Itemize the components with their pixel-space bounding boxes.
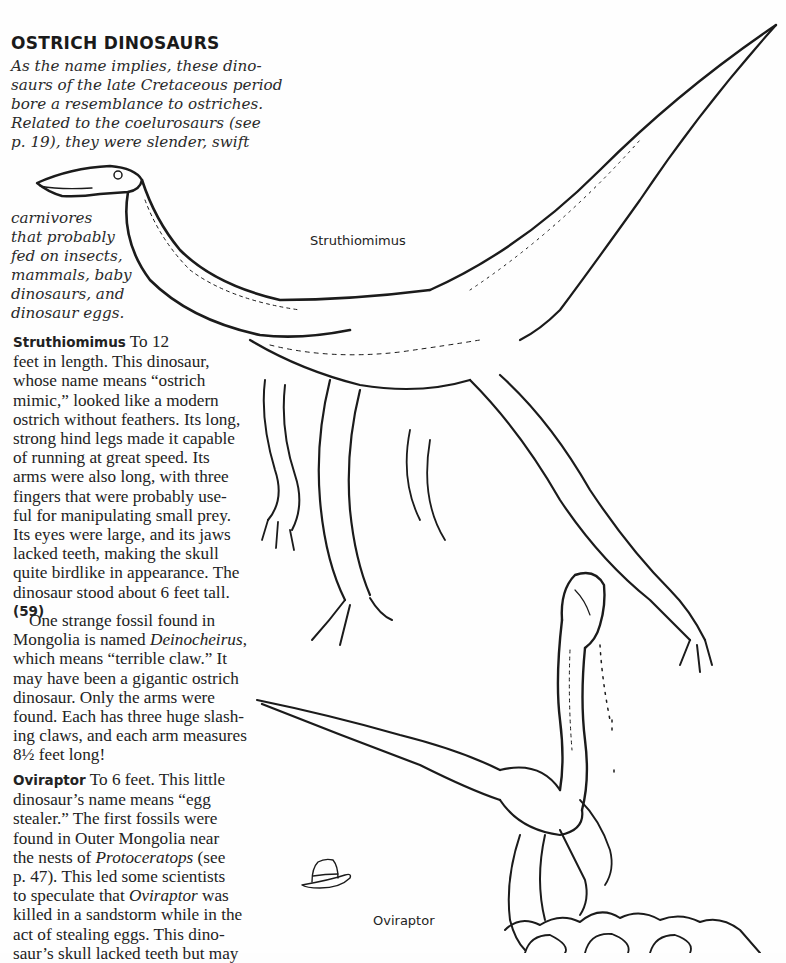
text-line: ostrich without feathers. Its long, [13,410,283,429]
intro-line: dinosaurs, and [11,285,131,304]
text-line: ing claws, and each arm measures [13,726,283,745]
text-line: One strange fossil found in [13,611,283,630]
species-name: Protoceratops [96,848,194,867]
species-name: Deinocheirus [150,630,243,649]
intro-paragraph: As the name implies, these dino- saurs o… [11,57,281,152]
oviraptor-drawing [257,573,760,953]
text-line: dinosaur’s name means “egg [13,790,283,809]
text-line: found. Each has three huge slash- [13,707,283,726]
intro-line: fed on insects, [11,247,131,266]
text-line: act of stealing eggs. This dino- [13,925,283,944]
text-line: 8½ feet long! [13,745,283,764]
text-line: found in Outer Mongolia near [13,829,283,848]
page-title: OSTRICH DINOSAURS [11,33,220,53]
intro-line: Related to the coelurosaurs (see [11,114,281,133]
text-line: ful for manipulating small prey. [13,506,283,525]
oviraptor-label: Oviraptor [373,913,435,928]
intro-line: As the name implies, these dino- [11,57,281,76]
text-line: dinosaur. Only the arms were [13,688,283,707]
intro-paragraph-continued: carnivores that probably fed on insects,… [11,209,131,322]
intro-line: mammals, baby [11,266,131,285]
text-line: lacked teeth, making the skull [13,544,283,563]
section-heading: Oviraptor [13,772,86,788]
intro-line: dinosaur eggs. [11,304,131,323]
text-line: mimic,” looked like a modern [13,391,283,410]
text-line: saur’s skull lacked teeth but may [13,944,283,963]
fedora-hat-icon [302,859,350,888]
text-line: p. 47). This led some scientists [13,867,283,886]
intro-line: that probably [11,228,131,247]
text-line: quite birdlike in appearance. The [13,563,283,582]
text-line: Its eyes were large, and its jaws [13,525,283,544]
text-line: fingers that were probably use- [13,487,283,506]
text-line: stealer.” The first fossils were [13,809,283,828]
text-line: of running at great speed. Its [13,448,283,467]
text-line: dinosaur stood about 6 feet tall. [13,583,283,602]
text-line: may have been a gigantic ostrich [13,669,283,688]
section-heading: Struthiomimus [13,334,126,350]
text-line: killed in a sandstorm while in the [13,905,283,924]
struthiomimus-section: Struthiomimus To 12 feet in length. This… [13,332,283,621]
intro-line: saurs of the late Cretaceous period [11,76,281,95]
text-line: arms were also long, with three [13,467,283,486]
text-line: which means “terrible claw.” It [13,649,283,668]
deinocheirus-paragraph: One strange fossil found in Mongolia is … [13,611,283,765]
struthiomimus-label: Struthiomimus [310,233,406,248]
text-line: strong hind legs made it capable [13,429,283,448]
intro-line: carnivores [11,209,131,228]
species-name: Oviraptor [129,886,198,905]
oviraptor-section: Oviraptor To 6 feet. This little dinosau… [13,770,283,963]
text-line: feet in length. This dinosaur, [13,352,283,371]
text-line: whose name means “ostrich [13,371,283,390]
intro-line: bore a resemblance to ostriches. [11,95,281,114]
intro-line: p. 19), they were slender, swift [11,133,281,152]
